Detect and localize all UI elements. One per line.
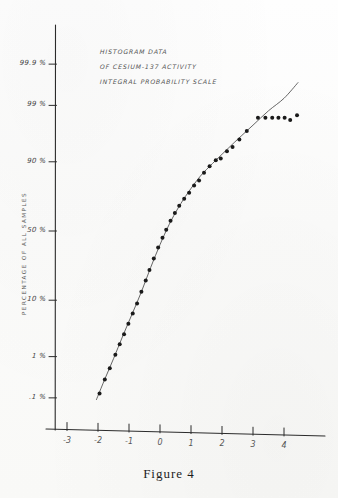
data-point: [208, 164, 212, 168]
y-axis-tick-label: 1 %: [0, 352, 46, 360]
x-axis-tick-label: -3: [58, 436, 76, 445]
data-point: [202, 171, 206, 175]
data-point: [288, 118, 292, 122]
data-point: [225, 149, 229, 153]
data-point: [263, 116, 267, 120]
data-point: [126, 322, 130, 326]
figure-container: HISTOGRAM DATA OF CESIUM-137 ACTIVITY IN…: [0, 0, 338, 498]
data-point: [231, 145, 235, 149]
data-point: [187, 191, 191, 195]
data-point: [164, 228, 168, 232]
x-axis-tick-label: 2: [213, 439, 231, 448]
data-point: [98, 392, 102, 396]
fitted-curve: [96, 83, 298, 400]
x-axis-line: [46, 429, 325, 436]
data-point: [245, 129, 249, 133]
data-point: [197, 179, 201, 183]
data-point: [295, 113, 299, 117]
annotation-line-1: HISTOGRAM DATA: [100, 44, 261, 59]
data-point: [139, 290, 143, 294]
data-point: [108, 366, 112, 370]
x-axis-tick-label: -1: [120, 437, 138, 446]
data-point: [219, 157, 223, 161]
y-axis-tick-label: 99.9 %: [0, 59, 46, 67]
annotation-line-3: INTEGRAL PROBABILITY SCALE: [100, 74, 261, 89]
data-point: [147, 268, 151, 272]
y-axis-tick-label: 99 %: [0, 100, 46, 108]
annotation-line-2: OF CESIUM-137 ACTIVITY: [100, 59, 261, 74]
data-point: [118, 342, 122, 346]
data-point: [122, 332, 126, 336]
data-point: [270, 116, 274, 120]
data-point: [237, 137, 241, 141]
x-axis-tick-label: -2: [89, 436, 107, 445]
data-point: [182, 197, 186, 201]
data-point: [192, 184, 196, 188]
data-point: [276, 116, 280, 120]
x-axis-tick-label: 0: [151, 438, 169, 447]
y-axis-title: PERCENTAGE OF ALL SAMPLES: [21, 195, 27, 315]
data-point: [256, 116, 260, 120]
data-point: [144, 278, 148, 282]
data-point: [103, 377, 107, 381]
data-point: [131, 312, 135, 316]
data-point: [156, 246, 160, 250]
data-point: [214, 158, 218, 162]
x-axis-tick-label: 1: [182, 439, 200, 448]
data-point: [169, 219, 173, 223]
y-axis-tick-label: 90 %: [0, 157, 46, 165]
data-point: [177, 204, 181, 208]
data-point: [160, 236, 164, 240]
figure-caption: Figure 4: [0, 466, 338, 482]
data-point: [283, 116, 287, 120]
x-axis-tick-label: 3: [244, 440, 262, 449]
x-axis-tick-label: 4: [275, 441, 293, 450]
data-point: [113, 353, 117, 357]
data-point-group: [98, 113, 299, 395]
data-point: [135, 301, 139, 305]
y-axis-tick-label: .1 %: [0, 393, 46, 401]
annotation-block: HISTOGRAM DATA OF CESIUM-137 ACTIVITY IN…: [100, 44, 260, 89]
data-point: [173, 211, 177, 215]
data-point: [152, 257, 156, 261]
